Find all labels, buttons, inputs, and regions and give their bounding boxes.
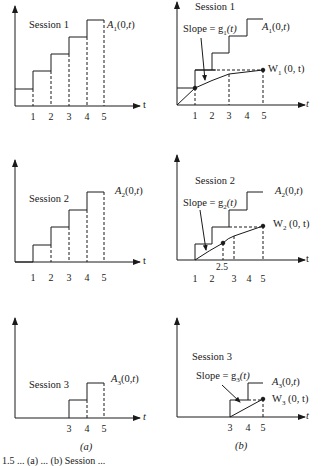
figure-caption-fragment: 1.5 ... (a) ... (b) Session ...	[2, 456, 105, 466]
tick-2: 2	[210, 274, 215, 284]
slope-arrow	[201, 38, 205, 80]
w2-curve-label: W2 (0, t)	[273, 219, 309, 232]
tick-4: 4	[247, 274, 252, 284]
tick-5: 5	[102, 273, 107, 283]
a3-curve-label-b: A3(0,t)	[272, 377, 300, 390]
tick-3: 3	[232, 274, 237, 284]
session-2-title-b: Session 2	[195, 176, 235, 187]
panel-a-session-2-axes	[15, 160, 140, 262]
session-3-title-a: Session 3	[29, 380, 69, 391]
slope-g1-label: Slope = g1(t)	[183, 24, 237, 37]
tick-4: 4	[246, 423, 251, 433]
slope-arrow	[222, 385, 240, 402]
tick-5: 5	[262, 111, 267, 121]
slope-g3-label: Slope = g3(t)	[196, 371, 250, 384]
tick-3: 3	[67, 112, 72, 122]
tick-3: 3	[227, 111, 232, 121]
panel-label-a: (a)	[80, 442, 92, 453]
x-axis-label: t	[143, 256, 146, 267]
a2-curve-label-b: A2(0,t)	[275, 186, 303, 199]
tick-3: 3	[67, 424, 72, 434]
w3-curve-label: W3 (0, t)	[272, 394, 308, 407]
tick-2: 2	[49, 273, 54, 283]
a1-curve-label-b: A1(0,t)	[262, 22, 290, 35]
session-1-title-b: Session 1	[195, 2, 235, 13]
a1-curve-label-a: A1(0,t)	[107, 20, 135, 33]
a3-curve-label-a: A3(0,t)	[111, 374, 139, 387]
tick-1: 1	[193, 274, 198, 284]
tick-4: 4	[245, 111, 250, 121]
tick-1: 1	[31, 112, 36, 122]
tick-2: 2	[49, 112, 54, 122]
w1-curve-label: W1 (0, t)	[268, 64, 304, 77]
x-axis-label: t	[143, 412, 146, 423]
tick-5: 5	[261, 274, 266, 284]
tick-5: 5	[102, 424, 107, 434]
session-3-title-b: Session 3	[192, 352, 232, 363]
session-2-title-a: Session 2	[29, 194, 69, 205]
tick-4: 4	[85, 273, 90, 283]
tick-2: 2	[210, 111, 215, 121]
x-axis-label: t	[306, 99, 309, 110]
tick-3: 3	[67, 273, 72, 283]
tick-5: 5	[102, 112, 107, 122]
x-axis-label: t	[306, 254, 309, 265]
panel-a-session-3-staircase	[69, 383, 104, 418]
panel-label-b: (b)	[235, 441, 247, 452]
panel-b-session-3-w-curve	[222, 385, 265, 417]
panel-a-session-1-staircase	[15, 20, 104, 106]
x-axis-label: t	[143, 100, 146, 111]
tick-3: 3	[228, 423, 233, 433]
tick-4: 4	[85, 112, 90, 122]
tick-4: 4	[85, 424, 90, 434]
slope-g2-label: Slope = g2(t)	[183, 198, 237, 211]
panel-b-session-1-w-curve	[177, 38, 265, 105]
tick-5: 5	[261, 423, 266, 433]
tick-1: 1	[31, 273, 36, 283]
panel-b-session-2-w-curve	[195, 210, 265, 260]
tick-1: 1	[193, 111, 198, 121]
session-1-title-a: Session 1	[29, 20, 69, 31]
tick-2-5: 2.5	[216, 263, 228, 273]
a2-curve-label-a: A2(0,t)	[115, 186, 143, 199]
x-axis-label: t	[306, 411, 309, 422]
panel-a-session-3-axes	[15, 318, 140, 418]
